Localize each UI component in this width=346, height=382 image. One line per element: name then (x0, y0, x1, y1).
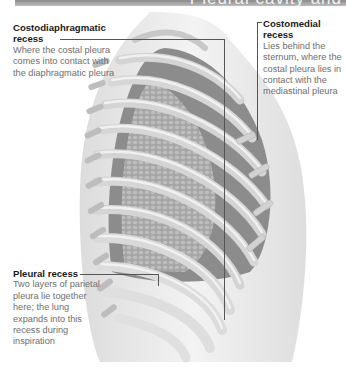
label-title: Costodiaphragmatic recess (13, 22, 123, 45)
label-description: Lies behind the sternum, where the costa… (263, 41, 342, 97)
label-description: Two layers of parietal pleura lie togeth… (13, 279, 100, 346)
leader-costodiaphragmatic-v (224, 39, 225, 320)
label-title: Costomedial recess (263, 18, 346, 41)
leader-pleural-recess-v (158, 274, 159, 286)
label-title: Pleural recess (13, 268, 103, 279)
leader-costomedial-v (257, 22, 258, 140)
label-description: Where the costal pleura comes into conta… (13, 45, 114, 78)
label-costodiaphragmatic-recess: Costodiaphragmatic recess Where the cost… (13, 22, 123, 79)
label-pleural-recess: Pleural recess Two layers of parietal pl… (13, 268, 103, 348)
label-costomedial-recess: Costomedial recess Lies behind the stern… (263, 18, 346, 98)
